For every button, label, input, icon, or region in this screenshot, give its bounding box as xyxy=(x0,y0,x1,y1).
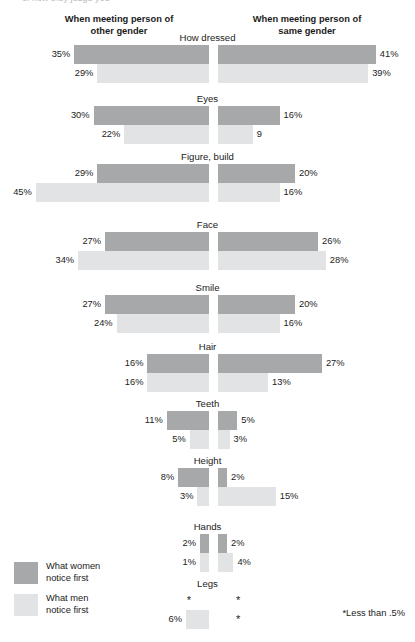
bar-women-left xyxy=(74,45,209,64)
bar-men-left xyxy=(147,373,209,392)
bar-value-label: 6% xyxy=(168,610,181,629)
bar-women-left xyxy=(105,232,209,251)
bar-row: 24%16% xyxy=(0,314,415,333)
bar-group: Eyes30%16%22%9 xyxy=(0,93,415,144)
bar-row: 45%16% xyxy=(0,183,415,202)
bar-group: Height8%2%3%15% xyxy=(0,455,415,506)
bar-row: 29%20% xyxy=(0,164,415,183)
bar-group: Teeth11%5%5%3% xyxy=(0,398,415,449)
bar-value-label: 2% xyxy=(231,534,244,553)
bar-value-label: 30% xyxy=(71,106,90,125)
bar-value-label: * xyxy=(236,610,240,629)
bar-value-label: 8% xyxy=(161,468,174,487)
bar-row: 5%3% xyxy=(0,430,415,449)
legend-label-men: What men notice first xyxy=(46,593,88,616)
bar-value-label: 34% xyxy=(56,251,75,270)
bar-value-label: * xyxy=(187,591,191,610)
bar-value-label: 15% xyxy=(280,487,299,506)
bar-women-right xyxy=(218,45,376,64)
bar-value-label: 11% xyxy=(145,411,163,430)
bar-value-label: 41% xyxy=(380,45,399,64)
bar-value-label: 29% xyxy=(75,64,94,83)
bar-value-label: 9 xyxy=(257,125,262,144)
bar-women-left xyxy=(200,534,209,553)
bar-row: 27%26% xyxy=(0,232,415,251)
bar-women-left xyxy=(178,468,209,487)
bar-value-label: 22% xyxy=(102,125,121,144)
bar-men-right xyxy=(218,251,326,270)
bar-group-title: Eyes xyxy=(0,93,415,105)
bar-row: 30%16% xyxy=(0,106,415,125)
bar-women-right xyxy=(218,295,295,314)
bar-women-right xyxy=(218,591,227,610)
bar-value-label: 2% xyxy=(183,534,196,553)
bar-women-left xyxy=(147,354,209,373)
bar-value-label: 20% xyxy=(299,295,318,314)
bar-value-label: 3% xyxy=(180,487,193,506)
bar-men-left xyxy=(97,64,209,83)
bar-group-title: Figure, build xyxy=(0,151,415,163)
bar-row: 2%2% xyxy=(0,534,415,553)
bar-value-label: 29% xyxy=(75,164,94,183)
bar-value-label: 16% xyxy=(125,373,144,392)
bar-value-label: 24% xyxy=(94,314,113,333)
bar-group: Figure, build29%20%45%16% xyxy=(0,151,415,202)
bar-women-left xyxy=(167,411,209,430)
bar-group-title: Face xyxy=(0,219,415,231)
bar-men-left xyxy=(197,487,209,506)
bar-row: 16%27% xyxy=(0,354,415,373)
bar-value-label: 16% xyxy=(284,314,303,333)
bar-value-label: 5% xyxy=(172,430,185,449)
bar-value-label: 16% xyxy=(284,106,303,125)
bar-value-label: 5% xyxy=(241,411,254,430)
bar-women-right xyxy=(218,106,280,125)
bar-value-label: 27% xyxy=(82,295,101,314)
bar-value-label: 45% xyxy=(13,183,32,202)
bar-row: 8%2% xyxy=(0,468,415,487)
bar-men-left xyxy=(190,430,209,449)
bar-women-right xyxy=(218,534,227,553)
bar-group-title: Smile xyxy=(0,282,415,294)
bar-row: 29%39% xyxy=(0,64,415,83)
bar-value-label: 13% xyxy=(272,373,291,392)
bar-women-right xyxy=(218,164,295,183)
bar-women-left xyxy=(94,106,210,125)
bar-men-right xyxy=(218,125,253,144)
bar-men-right xyxy=(218,487,276,506)
bar-group: Face27%26%34%28% xyxy=(0,219,415,270)
bar-value-label: 16% xyxy=(125,354,144,373)
bar-value-label: 26% xyxy=(322,232,341,251)
bar-row: 11%5% xyxy=(0,411,415,430)
bar-women-right xyxy=(218,468,227,487)
bar-row: 22%9 xyxy=(0,125,415,144)
bar-men-left xyxy=(36,183,209,202)
bar-value-label: 16% xyxy=(284,183,303,202)
diverging-bar-chart: How dressed35%41%29%39%Eyes30%16%22%9Fig… xyxy=(0,0,415,642)
chart-legend: What women notice first What men notice … xyxy=(14,561,129,625)
bar-women-right xyxy=(218,411,237,430)
bar-men-right xyxy=(218,610,227,629)
bar-group-title: How dressed xyxy=(0,32,415,44)
bar-value-label: 27% xyxy=(326,354,345,373)
legend-swatch-women-icon xyxy=(14,562,38,584)
bar-value-label: 3% xyxy=(234,430,247,449)
bar-value-label: 39% xyxy=(372,64,391,83)
bar-women-right xyxy=(218,232,318,251)
bar-row: 34%28% xyxy=(0,251,415,270)
bar-group: Hair16%27%16%13% xyxy=(0,341,415,392)
legend-item-women: What women notice first xyxy=(14,561,129,593)
bar-row: 35%41% xyxy=(0,45,415,64)
bar-men-right xyxy=(218,183,280,202)
bar-value-label: 20% xyxy=(299,164,318,183)
bar-men-right xyxy=(218,64,368,83)
bar-women-right xyxy=(218,354,322,373)
bar-row: 16%13% xyxy=(0,373,415,392)
bar-women-left xyxy=(200,591,209,610)
bar-row: 27%20% xyxy=(0,295,415,314)
bar-group: Smile27%20%24%16% xyxy=(0,282,415,333)
bar-value-label: 2% xyxy=(231,468,244,487)
bar-men-right xyxy=(218,314,280,333)
bar-women-left xyxy=(97,164,209,183)
bar-men-left xyxy=(78,251,209,270)
bar-value-label: 28% xyxy=(330,251,349,270)
